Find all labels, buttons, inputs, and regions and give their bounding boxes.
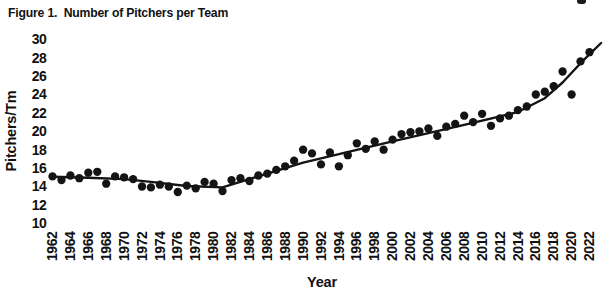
- x-tick-label: 1998: [366, 231, 382, 261]
- data-point: [236, 174, 244, 182]
- x-axis-tick-labels: 1962196419661968197019721974197619781980…: [44, 231, 597, 261]
- data-point: [102, 180, 110, 188]
- y-tick-label: 24: [32, 86, 47, 102]
- trend-line: [53, 43, 602, 187]
- y-tick-label: 18: [32, 142, 47, 158]
- data-point: [433, 132, 441, 140]
- x-tick-label: 1984: [241, 231, 257, 261]
- data-point: [245, 177, 253, 185]
- x-tick-label: 1972: [134, 231, 150, 261]
- data-point: [567, 90, 575, 98]
- data-point: [424, 124, 432, 132]
- data-point: [227, 176, 235, 184]
- data-point: [48, 172, 56, 180]
- data-point: [183, 181, 191, 189]
- data-point: [532, 90, 540, 98]
- data-point: [379, 146, 387, 154]
- data-point: [66, 171, 74, 179]
- data-point: [415, 127, 423, 135]
- data-point: [192, 184, 200, 192]
- data-point: [93, 168, 101, 176]
- x-tick-label: 2008: [456, 231, 472, 261]
- data-point: [469, 118, 477, 126]
- data-point: [165, 182, 173, 190]
- x-tick-label: 2020: [563, 231, 579, 261]
- data-point: [263, 169, 271, 177]
- data-point: [272, 166, 280, 174]
- x-tick-label: 1962: [44, 231, 60, 261]
- x-tick-label: 2014: [510, 231, 526, 261]
- y-axis-tick-labels: 1012141618202224262830: [32, 31, 47, 231]
- figure-page: Figure 1. Number of Pitchers per Team 10…: [0, 0, 613, 301]
- x-tick-label: 2010: [474, 231, 490, 261]
- data-point: [451, 120, 459, 128]
- data-point: [84, 169, 92, 177]
- data-point: [290, 157, 298, 165]
- data-point: [129, 175, 137, 183]
- data-point: [487, 122, 495, 130]
- y-tick-label: 12: [32, 197, 47, 213]
- pitchers-per-team-chart: 1012141618202224262830 19621964196619681…: [0, 0, 613, 301]
- x-tick-label: 1980: [205, 231, 221, 261]
- data-point: [353, 139, 361, 147]
- data-point: [523, 102, 531, 110]
- data-point: [576, 57, 584, 65]
- data-point: [317, 160, 325, 168]
- y-tick-label: 30: [32, 31, 47, 47]
- x-tick-label: 1988: [277, 231, 293, 261]
- data-point: [388, 135, 396, 143]
- scatter-points: [48, 48, 593, 196]
- data-point: [460, 112, 468, 120]
- data-point: [514, 106, 522, 114]
- x-tick-label: 1966: [80, 231, 96, 261]
- y-tick-label: 10: [32, 215, 47, 231]
- data-point: [200, 178, 208, 186]
- data-point: [138, 182, 146, 190]
- data-point: [209, 180, 217, 188]
- data-point: [496, 114, 504, 122]
- x-tick-label: 1976: [169, 231, 185, 261]
- data-point: [335, 162, 343, 170]
- x-tick-label: 2022: [581, 231, 597, 261]
- x-tick-label: 1978: [187, 231, 203, 261]
- data-point: [147, 183, 155, 191]
- y-tick-label: 14: [32, 178, 47, 194]
- x-tick-label: 1970: [116, 231, 132, 261]
- data-point: [254, 171, 262, 179]
- data-point: [156, 181, 164, 189]
- data-point: [478, 110, 486, 118]
- data-point: [326, 148, 334, 156]
- data-point: [558, 67, 566, 75]
- x-tick-label: 2016: [527, 231, 543, 261]
- x-tick-label: 1968: [98, 231, 114, 261]
- x-tick-label: 2012: [492, 231, 508, 261]
- data-point: [585, 48, 593, 56]
- x-tick-label: 2004: [420, 231, 436, 261]
- data-point: [406, 128, 414, 136]
- data-point: [550, 82, 558, 90]
- data-point: [442, 123, 450, 131]
- data-point: [174, 188, 182, 196]
- data-point: [111, 172, 119, 180]
- data-point: [57, 176, 65, 184]
- data-point: [344, 151, 352, 159]
- data-point: [299, 146, 307, 154]
- data-point: [75, 174, 83, 182]
- x-tick-label: 1964: [62, 231, 78, 261]
- data-point: [218, 187, 226, 195]
- x-axis-title: Year: [307, 274, 337, 290]
- y-tick-label: 26: [32, 68, 47, 84]
- x-tick-label: 2000: [384, 231, 400, 261]
- data-point: [397, 130, 405, 138]
- x-tick-label: 1990: [295, 231, 311, 261]
- data-point: [371, 137, 379, 145]
- x-tick-label: 2018: [545, 231, 561, 261]
- x-tick-label: 1986: [259, 231, 275, 261]
- data-point: [505, 112, 513, 120]
- x-tick-label: 1996: [348, 231, 364, 261]
- x-tick-label: 1982: [223, 231, 239, 261]
- data-point: [308, 149, 316, 157]
- x-tick-label: 2002: [402, 231, 418, 261]
- x-tick-label: 1994: [331, 231, 347, 261]
- y-tick-label: 22: [32, 105, 47, 121]
